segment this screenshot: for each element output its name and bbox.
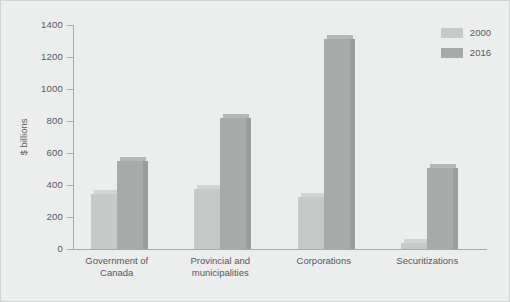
legend-swatch-2016	[441, 48, 463, 58]
bar-2000-1[interactable]	[194, 189, 220, 249]
bar-face	[91, 194, 117, 249]
y-axis-title: $ billions	[18, 119, 29, 156]
bar-top-shading	[120, 157, 146, 161]
bar-side-shading	[350, 39, 355, 249]
legend-swatch-2000	[441, 28, 463, 38]
bar-face	[324, 39, 350, 249]
x-axis-label-line: Corporations	[264, 255, 384, 267]
bar-side-shading	[246, 118, 251, 249]
bar-top-shading	[430, 164, 456, 168]
bar-face	[220, 118, 246, 249]
bar-2016-1[interactable]	[220, 118, 246, 249]
bar-2000-2[interactable]	[298, 197, 324, 249]
bar-2000-3[interactable]	[401, 243, 427, 249]
legend-item-2016[interactable]: 2016	[441, 47, 491, 58]
bar-2016-0[interactable]	[117, 161, 143, 249]
y-axis-tick-label: 600	[47, 147, 63, 158]
y-axis-tick	[67, 249, 74, 250]
x-axis-label-2: Corporations	[264, 255, 384, 267]
y-axis-tick-label: 200	[47, 211, 63, 222]
bar-top-shading	[223, 114, 249, 118]
bar-2016-3[interactable]	[427, 168, 453, 249]
chart-figure: $ billions 1400120010008006004002000 Gov…	[0, 0, 510, 302]
bar-face	[401, 243, 427, 249]
x-axis-label-1: Provincial andmunicipalities	[160, 255, 280, 279]
y-axis-tick-label: 1400	[41, 19, 63, 30]
bar-face	[427, 168, 453, 249]
x-axis-label-line: Securitizations	[367, 255, 487, 267]
plot-area	[73, 25, 487, 249]
bar-face	[117, 161, 143, 249]
legend-item-2000[interactable]: 2000	[441, 27, 491, 38]
bar-2000-0[interactable]	[91, 194, 117, 249]
legend-label-2000: 2000	[470, 27, 491, 38]
x-axis-label-0: Government ofCanada	[57, 255, 177, 279]
category-axis-line	[73, 249, 487, 250]
bar-side-shading	[143, 161, 148, 249]
chart-legend: 2000 2016	[441, 27, 491, 67]
y-axis-tick-label: 400	[47, 179, 63, 190]
x-axis-label-line: municipalities	[160, 267, 280, 279]
x-axis-label-3: Securitizations	[367, 255, 487, 267]
y-axis-tick-label: 0	[58, 243, 63, 254]
bar-side-shading	[453, 168, 458, 249]
legend-label-2016: 2016	[470, 47, 491, 58]
bar-face	[194, 189, 220, 249]
bar-face	[298, 197, 324, 249]
bar-top-shading	[327, 35, 353, 39]
x-axis-label-line: Provincial and	[160, 255, 280, 267]
y-axis-tick-label: 1200	[41, 51, 63, 62]
y-axis-tick-label: 800	[47, 115, 63, 126]
x-axis-label-line: Canada	[57, 267, 177, 279]
bar-2016-2[interactable]	[324, 39, 350, 249]
x-axis-label-line: Government of	[57, 255, 177, 267]
y-axis-tick-label: 1000	[41, 83, 63, 94]
